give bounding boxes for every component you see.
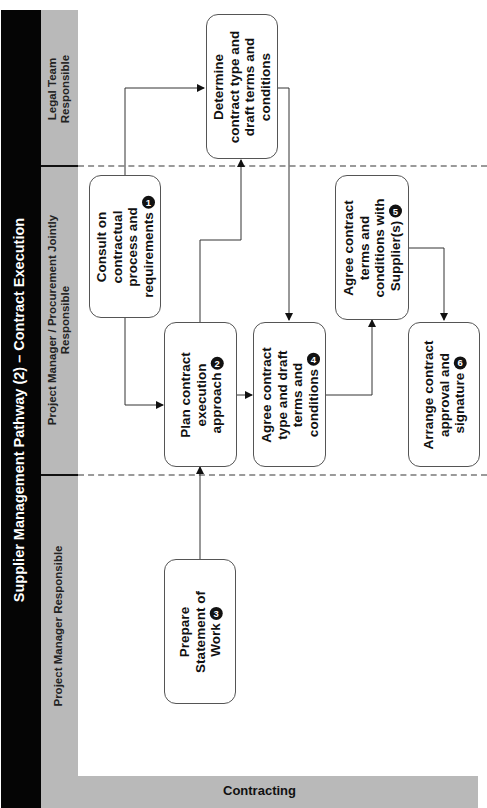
connector-step1-step2: [125, 318, 163, 405]
step-text-line: approval and: [436, 340, 452, 449]
step-number-badge: 3: [210, 607, 223, 620]
step-number-badge: 5: [389, 204, 402, 217]
step-text-line: execution: [193, 352, 209, 438]
step-box-4: Agree contract type and draft terms and …: [253, 322, 326, 467]
connector-step5-step6: [409, 248, 444, 320]
connector-step4-step5: [326, 320, 372, 395]
step-number-badge: 2: [210, 356, 223, 369]
step-text-line: conditions: [258, 30, 274, 143]
step-text-line: Prepare: [177, 591, 193, 673]
step-box-determine: Determine contract type and draft terms …: [206, 14, 278, 159]
step-text-line: signature: [452, 372, 467, 433]
step-text-line: Determine: [211, 30, 227, 143]
step-text-line: approach: [208, 372, 223, 433]
step-text-line: contract type and: [227, 30, 243, 143]
connector-determine-step4: [278, 88, 289, 320]
step-number-badge: 6: [454, 356, 467, 369]
step-text-line: conditions: [305, 368, 320, 436]
step-text-line: Supplier(s): [388, 220, 403, 291]
step-text-line: Agree contract: [341, 198, 357, 297]
step-text-line: type and draft: [274, 347, 290, 442]
step-box-6: Arrange contract approval and signature6: [408, 322, 480, 467]
connector-step1-determine: [125, 88, 204, 175]
step-text-line: conditions with: [372, 198, 388, 297]
step-box-5: Agree contract terms and conditions with…: [335, 175, 409, 320]
connector-step2-determine: [200, 160, 241, 322]
step-text-line: draft terms and: [242, 30, 258, 143]
step-text-line: process and: [125, 196, 141, 298]
step-text-line: requirements: [141, 212, 156, 298]
step-box-1: Consult on contractual process and requi…: [89, 175, 161, 318]
step-text-line: Agree contract: [259, 347, 275, 442]
step-text-line: contractual: [110, 196, 126, 298]
step-text-line: terms and: [290, 347, 306, 442]
step-text-line: Arrange contract: [421, 340, 437, 449]
step-text-line: Consult on: [94, 196, 110, 298]
step-text-line: Work: [208, 623, 223, 657]
step-text-line: Statement of: [192, 591, 207, 673]
step-text-line: terms and: [357, 198, 373, 297]
step-box-2: Plan contract execution approach2: [164, 322, 237, 467]
step-number-badge: 1: [142, 196, 155, 209]
step-text-line: Plan contract: [177, 352, 193, 438]
step-box-3: Prepare Statement of Work3: [164, 559, 236, 704]
step-number-badge: 4: [307, 352, 320, 365]
